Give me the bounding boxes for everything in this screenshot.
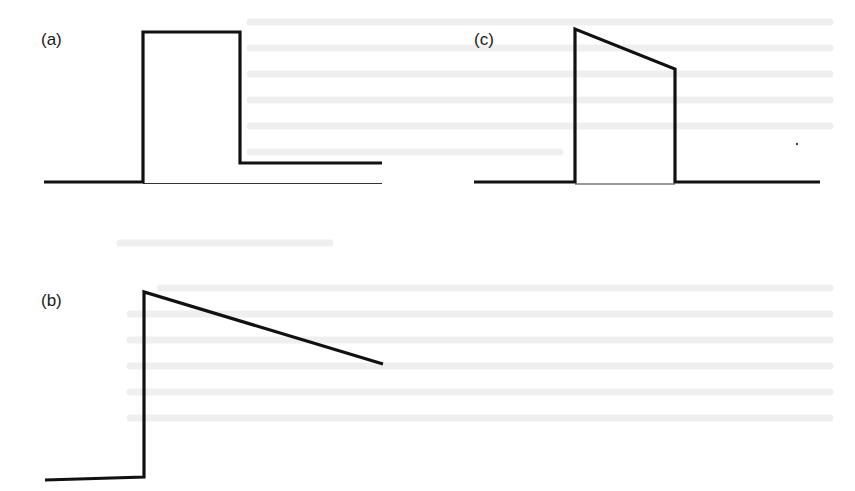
panel-a-pulse-line [44, 32, 382, 182]
panel-b-label: (b) [41, 291, 62, 311]
bleed-through-lines [120, 22, 830, 418]
stray-dot [796, 143, 798, 145]
figure-container: (a) (b) (c) [0, 0, 855, 491]
panel-c-label: (c) [474, 30, 494, 50]
panel-b-waveform [45, 292, 383, 480]
panel-a-waveform [44, 32, 382, 184]
panel-c-waveform [474, 29, 820, 184]
panel-c-pulse-line [474, 29, 820, 182]
waveform-figure [0, 0, 855, 491]
panel-a-label: (a) [41, 30, 62, 50]
panel-b-ramp-line [45, 292, 383, 480]
